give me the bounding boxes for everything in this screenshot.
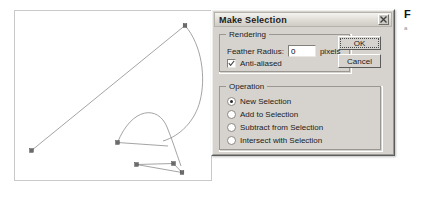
path-segment-straight	[32, 26, 186, 151]
radio-label: Subtract from Selection	[240, 123, 323, 132]
screenshot-root: Make Selection Rendering Feather Radius:…	[0, 0, 426, 197]
radio-icon	[227, 110, 236, 119]
radio-subtract-from-selection[interactable]: Subtract from Selection	[227, 121, 323, 134]
anchor-point	[116, 141, 120, 145]
caption-letter: F	[404, 8, 426, 20]
radio-icon	[227, 123, 236, 132]
anti-aliased-checkbox[interactable]	[227, 59, 236, 68]
close-icon	[379, 15, 388, 24]
path-segment-baseline	[118, 143, 169, 147]
rendering-legend: Rendering	[226, 30, 269, 39]
cancel-button-label: Cancel	[347, 57, 372, 66]
feather-radius-input[interactable]	[288, 45, 316, 57]
radio-label: Intersect with Selection	[240, 136, 322, 145]
anchor-point	[135, 163, 139, 167]
radio-label: New Selection	[240, 97, 291, 106]
cancel-button[interactable]: Cancel	[338, 54, 381, 68]
ok-button-label: OK	[354, 39, 366, 48]
radio-icon	[227, 136, 236, 145]
operation-radio-group: New Selection Add to Selection Subtract …	[227, 95, 323, 147]
anti-aliased-row[interactable]: Anti-aliased	[227, 59, 282, 68]
operation-legend: Operation	[226, 82, 267, 91]
checkmark-icon	[228, 60, 235, 67]
dialog-titlebar[interactable]: Make Selection	[214, 12, 392, 27]
feather-radius-label: Feather Radius:	[227, 47, 284, 56]
anchor-point	[180, 171, 184, 175]
dialog-title: Make Selection	[219, 15, 287, 25]
radio-new-selection[interactable]: New Selection	[227, 95, 323, 108]
rendering-groupbox: Rendering Feather Radius: pixels Anti-al…	[219, 34, 352, 74]
ok-button[interactable]: OK	[338, 36, 381, 50]
anchor-point	[172, 162, 176, 166]
radio-icon	[227, 97, 236, 106]
path-segment-hump	[118, 113, 182, 166]
radio-add-to-selection[interactable]: Add to Selection	[227, 108, 323, 121]
path-editing-canvas[interactable]	[14, 10, 212, 181]
handle-line-a	[137, 164, 174, 165]
make-selection-dialog: Make Selection Rendering Feather Radius:…	[211, 9, 395, 156]
anti-aliased-label: Anti-aliased	[240, 59, 282, 68]
path-segment-teardrop	[163, 26, 203, 142]
close-button[interactable]	[378, 14, 389, 25]
bezier-path-artwork	[14, 10, 212, 181]
anchor-point	[183, 24, 187, 28]
radio-intersect-with-selection[interactable]: Intersect with Selection	[227, 134, 323, 147]
operation-groupbox: Operation New Selection Add to Selection…	[219, 86, 383, 152]
feather-radius-row: Feather Radius: pixels	[227, 45, 340, 57]
caption-subtext: a	[404, 24, 426, 32]
caption-fragment: F a	[404, 8, 426, 32]
radio-label: Add to Selection	[240, 110, 298, 119]
anchor-point	[30, 149, 34, 153]
